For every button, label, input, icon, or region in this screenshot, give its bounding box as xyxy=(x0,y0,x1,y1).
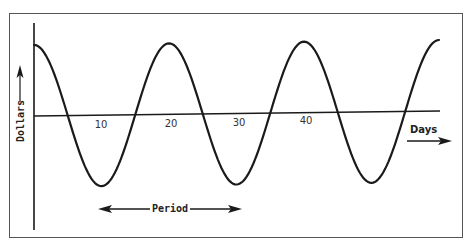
x-axis xyxy=(34,111,440,116)
period-chart: 10 20 30 40 Days Dollars Period xyxy=(0,0,471,242)
x-tick-label-30: 30 xyxy=(233,117,246,128)
x-axis-label: Days xyxy=(410,124,437,135)
x-tick-label-20: 20 xyxy=(165,118,178,129)
y-axis-label: Dollars xyxy=(15,100,26,142)
period-label: Period xyxy=(152,203,188,214)
x-tick-label-40: 40 xyxy=(300,115,313,126)
left-arrow-icon xyxy=(98,205,150,213)
up-arrow-icon xyxy=(17,65,24,102)
y-axis-label-group: Dollars xyxy=(15,100,26,142)
right-arrow-icon xyxy=(190,205,242,213)
right-arrow-icon xyxy=(407,137,452,145)
x-tick-label-10: 10 xyxy=(95,119,108,130)
